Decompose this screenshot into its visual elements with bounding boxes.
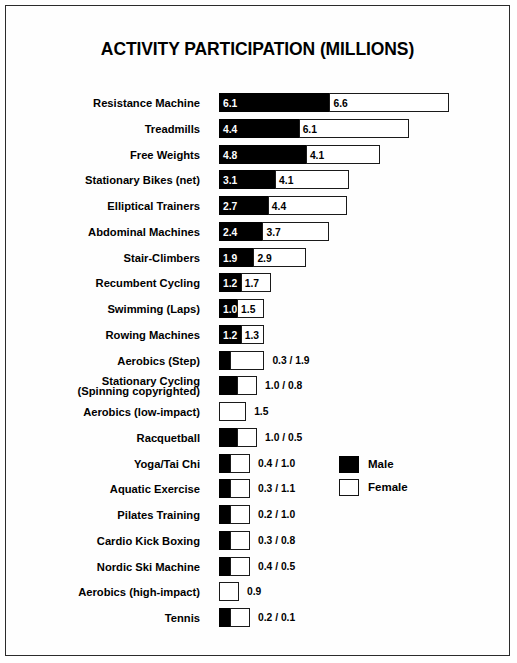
category-label: Tennis [20, 608, 200, 628]
chart-legend: MaleFemale [339, 455, 459, 501]
chart-bar-row: Aerobics (high-impact)0.9 [6, 582, 509, 608]
category-label: Stair-Climbers [20, 248, 200, 268]
category-label: Nordic Ski Machine [20, 557, 200, 577]
bar-segment-female [230, 505, 250, 524]
stacked-bar [219, 531, 250, 550]
stacked-bar [219, 428, 257, 447]
bar-value-male: 6.1 [223, 94, 237, 113]
stacked-bar [219, 557, 250, 576]
stacked-bar [219, 505, 250, 524]
bar-segment-male [219, 557, 230, 576]
bar-value-female: 4.4 [272, 197, 286, 216]
legend-item: Male [339, 455, 459, 478]
bar-segment-male: 1.9 [219, 248, 253, 267]
bar-value-outside: 0.4 / 0.5 [258, 557, 295, 576]
chart-bar-row: Treadmills4.46.1 [6, 119, 509, 145]
stacked-bar: 1.21.3 [219, 325, 264, 344]
legend-swatch-male [339, 456, 359, 473]
bar-segment-male: 1.2 [219, 325, 241, 344]
bar-value-outside: 0.4 / 1.0 [258, 454, 295, 473]
bar-value-male: 1.9 [223, 249, 237, 268]
bar-segment-female [237, 428, 257, 447]
bar-segment-female: 2.9 [253, 248, 305, 267]
chart-bar-row: Stationary Bikes (net)3.14.1 [6, 170, 509, 196]
bar-segment-male [219, 351, 230, 370]
category-label-line2: (Spinning copyrighted) [78, 386, 200, 397]
bar-segment-male [219, 479, 230, 498]
bar-value-male: 1.2 [223, 326, 237, 345]
stacked-bar [219, 608, 250, 627]
bar-segment-female [230, 608, 250, 627]
legend-swatch-female [339, 479, 359, 496]
bar-segment-female: 4.1 [306, 145, 380, 164]
legend-item: Female [339, 478, 459, 501]
category-label: Rowing Machines [20, 325, 200, 345]
chart-bar-row: Resistance Machine6.16.6 [6, 93, 509, 119]
stacked-bar: 3.14.1 [219, 170, 349, 189]
stacked-bar: 1.92.9 [219, 248, 306, 267]
category-label: Stationary Cycling(Spinning copyrighted) [20, 375, 200, 397]
bar-segment-male: 2.7 [219, 196, 268, 215]
bar-segment-male [219, 531, 230, 550]
bar-value-outside: 0.3 / 0.8 [258, 531, 295, 550]
bar-value-male: 4.8 [223, 146, 237, 165]
bar-value-male: 4.4 [223, 120, 237, 139]
bar-segment-female [230, 454, 250, 473]
category-label: Aerobics (low-impact) [20, 402, 200, 422]
chart-bar-row: Stationary Cycling(Spinning copyrighted)… [6, 376, 509, 402]
category-label: Free Weights [20, 145, 200, 165]
bar-segment-male: 4.8 [219, 145, 306, 164]
bar-value-male: 1.0 [223, 300, 237, 319]
category-label: Abdominal Machines [20, 222, 200, 242]
bar-segment-female: 3.7 [262, 222, 329, 241]
bar-segment-female: 1.7 [241, 273, 272, 292]
chart-bar-row: Swimming (Laps)1.01.5 [6, 299, 509, 325]
bar-segment-male [219, 608, 230, 627]
category-label: Pilates Training [20, 505, 200, 525]
bar-segment-female: 4.1 [275, 170, 349, 189]
bar-segment-female [230, 351, 264, 370]
bar-segment-male: 2.4 [219, 222, 262, 241]
bar-segment-female: 1.3 [241, 325, 265, 344]
category-label: Recumbent Cycling [20, 273, 200, 293]
bar-segment-male: 1.2 [219, 273, 241, 292]
category-label: Swimming (Laps) [20, 299, 200, 319]
bar-value-outside: 0.9 [247, 582, 261, 601]
bar-segment-male [219, 454, 230, 473]
bar-value-male: 1.2 [223, 274, 237, 293]
stacked-bar [219, 376, 257, 395]
bar-segment-male: 3.1 [219, 170, 275, 189]
stacked-bar: 1.01.5 [219, 299, 264, 318]
chart-bar-row: Aerobics (low-impact)1.5 [6, 402, 509, 428]
bar-value-outside: 1.0 / 0.5 [265, 428, 302, 447]
bar-value-female: 4.1 [310, 146, 324, 165]
chart-bar-row: Pilates Training0.2 / 1.0 [6, 505, 509, 531]
stacked-bar [219, 582, 239, 601]
category-label: Treadmills [20, 119, 200, 139]
chart-bar-row: Rowing Machines1.21.3 [6, 325, 509, 351]
category-label: Resistance Machine [20, 93, 200, 113]
chart-frame: ACTIVITY PARTICIPATION (MILLIONS) Resist… [5, 5, 510, 656]
bar-segment-female [237, 376, 257, 395]
bar-segment-male [219, 376, 237, 395]
chart-plot-area: Resistance Machine6.16.6Treadmills4.46.1… [6, 6, 509, 655]
category-label: Stationary Bikes (net) [20, 170, 200, 190]
chart-bar-row: Aerobics (Step)0.3 / 1.9 [6, 351, 509, 377]
bar-segment-female [230, 557, 250, 576]
legend-label: Male [368, 455, 394, 474]
stacked-bar [219, 454, 250, 473]
stacked-bar [219, 479, 250, 498]
bar-value-male: 2.7 [223, 197, 237, 216]
stacked-bar: 4.46.1 [219, 119, 409, 138]
category-label: Elliptical Trainers [20, 196, 200, 216]
chart-bar-row: Cardio Kick Boxing0.3 / 0.8 [6, 531, 509, 557]
bar-value-female: 1.3 [245, 326, 259, 345]
bar-segment-female [219, 402, 246, 421]
category-label: Aerobics (Step) [20, 351, 200, 371]
stacked-bar: 1.21.7 [219, 273, 271, 292]
chart-bar-row: Elliptical Trainers2.74.4 [6, 196, 509, 222]
bar-value-outside: 0.3 / 1.1 [258, 479, 295, 498]
bar-segment-female [219, 582, 239, 601]
category-label: Aquatic Exercise [20, 479, 200, 499]
chart-bar-row: Tennis0.2 / 0.1 [6, 608, 509, 634]
